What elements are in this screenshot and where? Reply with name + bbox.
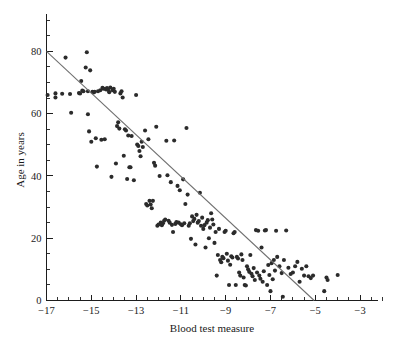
scatter-plot-figure: −17−15−13−11−9−7−5−3 020406080 Blood tes… (0, 0, 394, 343)
data-point (259, 246, 263, 250)
data-point (256, 229, 260, 233)
data-point (87, 129, 91, 133)
data-point (164, 139, 168, 143)
data-point (219, 260, 223, 264)
data-point (178, 188, 182, 192)
data-point (253, 278, 257, 282)
x-tick-label: −15 (83, 305, 99, 316)
data-point (295, 260, 299, 264)
x-axis-ticks (47, 295, 383, 301)
data-point (214, 230, 218, 234)
data-point (207, 236, 211, 240)
data-point (128, 165, 132, 169)
data-point (121, 95, 125, 99)
data-point (201, 227, 205, 231)
data-point (137, 149, 141, 153)
data-point (284, 228, 288, 232)
data-point (149, 203, 153, 207)
data-point (183, 202, 187, 206)
data-point (195, 213, 199, 217)
data-point (215, 274, 219, 278)
data-point (217, 227, 221, 231)
data-point (134, 93, 138, 97)
data-point (119, 89, 123, 93)
data-point (262, 269, 266, 273)
data-point (85, 50, 89, 54)
data-point (221, 256, 225, 260)
data-point (275, 255, 279, 259)
data-point (88, 68, 92, 72)
data-point (89, 140, 93, 144)
data-point (154, 125, 158, 129)
data-point (182, 221, 186, 225)
data-point (211, 222, 215, 226)
data-point (261, 280, 265, 284)
y-tick-label: 20 (31, 233, 42, 244)
data-point (212, 241, 216, 245)
data-point (239, 252, 243, 256)
regression-line (47, 51, 315, 300)
data-point (146, 137, 150, 141)
x-tick-label: −11 (173, 305, 189, 316)
data-point (136, 144, 140, 148)
data-point (242, 275, 246, 279)
data-point (122, 154, 126, 158)
data-point (224, 229, 228, 233)
data-point (234, 283, 238, 287)
data-point (281, 295, 285, 299)
data-point (151, 199, 155, 203)
data-point (233, 230, 237, 234)
x-tick-label: −9 (220, 305, 231, 316)
x-tick-label: −13 (128, 305, 144, 316)
data-point (68, 92, 72, 96)
data-point (293, 264, 297, 268)
data-point (208, 226, 212, 230)
data-point (189, 237, 193, 241)
data-point (141, 145, 145, 149)
data-point (143, 128, 147, 132)
data-point (209, 211, 213, 215)
data-point (203, 246, 207, 250)
y-axis-ticks (47, 20, 53, 300)
data-point (184, 126, 188, 130)
data-point (169, 180, 173, 184)
data-point (84, 66, 88, 70)
data-point (322, 289, 326, 293)
data-point (252, 266, 256, 270)
data-point (336, 273, 340, 277)
x-axis-tick-labels: −17−15−13−11−9−7−5−3 (38, 305, 365, 316)
scatter-points-group (46, 50, 340, 299)
axes-group (47, 14, 379, 301)
y-tick-label: 0 (36, 295, 41, 306)
data-point (216, 253, 220, 257)
data-point (69, 111, 73, 115)
data-point (114, 161, 118, 165)
data-point (125, 177, 129, 181)
data-point (60, 92, 64, 96)
data-point (286, 266, 290, 270)
data-point (274, 229, 278, 233)
data-point (264, 228, 268, 232)
data-point (150, 206, 154, 210)
data-point (53, 91, 57, 95)
data-point (227, 283, 231, 287)
data-point (188, 221, 192, 225)
data-point (171, 230, 175, 234)
data-point (117, 127, 121, 131)
data-point (172, 138, 176, 142)
data-point (130, 134, 134, 138)
data-point (304, 264, 308, 268)
data-point (116, 120, 120, 124)
data-point (228, 263, 232, 267)
data-point (273, 269, 277, 273)
y-axis-tick-labels: 020406080 (31, 46, 42, 306)
data-point (302, 274, 306, 278)
data-point (225, 252, 229, 256)
data-point (291, 270, 295, 274)
data-point (282, 258, 286, 262)
data-point (248, 253, 252, 257)
data-point (153, 164, 157, 168)
data-point (193, 242, 197, 246)
data-point (124, 128, 128, 132)
data-point (63, 56, 67, 60)
